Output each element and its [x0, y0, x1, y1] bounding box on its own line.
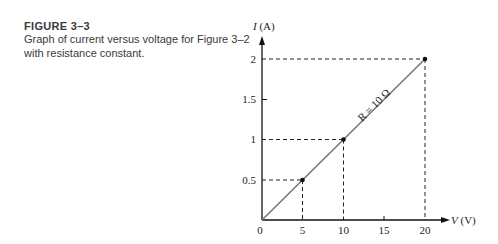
x-tick-label: 20	[420, 224, 432, 236]
y-axis-title: I (A)	[252, 20, 275, 33]
x-tick-label: 0	[257, 224, 263, 236]
y-tick-label: 2	[251, 53, 257, 65]
y-tick-label: 1	[251, 133, 257, 145]
x-axis-arrow-icon	[441, 217, 450, 223]
data-point	[341, 137, 346, 142]
x-tick-label: 15	[379, 224, 391, 236]
x-tick-label: 5	[300, 224, 306, 236]
data-point	[423, 57, 428, 62]
y-tick-label: 0.5	[242, 174, 256, 186]
resistance-label: R = 10 Ω	[355, 86, 393, 123]
y-axis-arrow-icon	[259, 36, 265, 45]
y-tick-label: 1.5	[242, 93, 256, 105]
iv-chart: 2 1.5 1 0.5 0 5 10 15 20 I (A) V (V) R =…	[0, 0, 498, 244]
data-point	[300, 178, 305, 183]
x-axis-title: V (V)	[451, 214, 476, 227]
x-tick-label: 10	[338, 224, 350, 236]
